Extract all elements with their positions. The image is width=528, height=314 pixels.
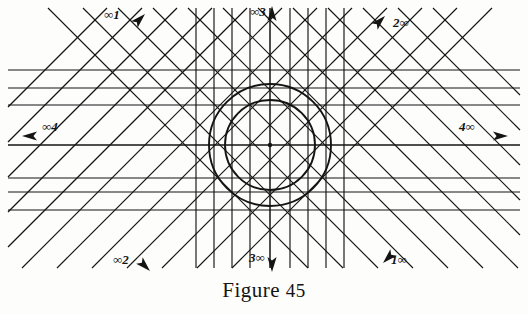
- diagonal-down-right-11: [48, 8, 308, 268]
- diagonal-down-right-1: [398, 8, 520, 130]
- diagonal-up-right-8: [127, 8, 387, 268]
- diagonal-up-right-5: [22, 8, 282, 268]
- vertical-lines-group: [196, 8, 344, 268]
- diagonal-up-right-1: [8, 8, 142, 142]
- diagonal-up-right-2: [8, 8, 177, 177]
- figure-caption: Figure 45: [0, 278, 528, 303]
- center-dot: [268, 143, 272, 147]
- diagonal-up-right-6: [57, 8, 317, 268]
- diagonal-down-right-5: [258, 8, 518, 268]
- figure-45-container: ∞1 ∞3 2∞ ∞4 4∞ ∞2 3∞ 1∞ Figure 45: [0, 0, 528, 314]
- label-infinity-2: ∞2: [113, 253, 129, 266]
- diagonal-up-right-7: [92, 8, 352, 268]
- label-inf-2-arrowhead: [136, 257, 150, 271]
- diagonal-down-right-2: [363, 8, 520, 165]
- diagonal-down-right-3: [328, 8, 520, 200]
- diagonal-down-right-6: [223, 8, 483, 268]
- label-2-infinity: 2∞: [393, 16, 409, 29]
- diagonal-down-right-8: [153, 8, 413, 268]
- label-3-inf-arrowhead: [267, 257, 276, 272]
- diagonal-down-right-7: [188, 8, 448, 268]
- label-4-inf-arrowhead: [493, 131, 508, 140]
- label-infinity-4: ∞4: [42, 120, 58, 133]
- geometric-line-diagram: [0, 0, 528, 314]
- diagonal-up-right-11: [232, 8, 492, 268]
- diagonal-up-right-3: [8, 8, 212, 212]
- center-point: [268, 143, 272, 147]
- label-infinity-1: ∞1: [104, 8, 120, 21]
- caption-number: 45: [286, 280, 306, 301]
- diagonal-up-right-9: [162, 8, 422, 268]
- label-1-infinity: 1∞: [391, 253, 407, 266]
- label-4-infinity: 4∞: [459, 120, 475, 133]
- diagonal-down-right-9: [118, 8, 378, 268]
- label-inf-4-arrowhead: [22, 131, 37, 140]
- label-3-infinity: 3∞: [249, 251, 265, 264]
- diagonal-down-right-0: [433, 8, 520, 95]
- diagonal-lines-down-right-group: [48, 8, 520, 268]
- diagonal-down-right-10: [83, 8, 343, 268]
- diagonal-up-right-10: [197, 8, 457, 268]
- label-infinity-3: ∞3: [250, 5, 266, 18]
- caption-word: Figure: [222, 278, 280, 302]
